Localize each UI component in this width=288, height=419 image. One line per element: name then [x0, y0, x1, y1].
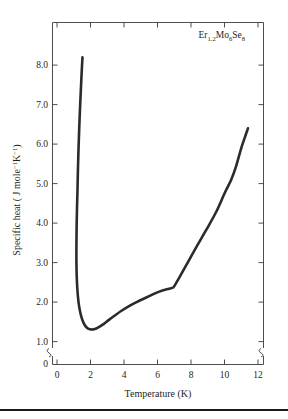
y-tick-label: 1.0: [36, 337, 48, 347]
compound-annotation: Er1.2Mo6Se8: [198, 30, 245, 42]
x-tick-label: 12: [253, 370, 263, 380]
svg-text:Specific heat ( J mole−1K−1): Specific heat ( J mole−1K−1): [11, 144, 23, 255]
y-axis-ticks: [53, 65, 58, 342]
y-tick-label: 4.0: [36, 218, 48, 228]
specific-heat-curve: [76, 57, 248, 329]
x-tick-label: 4: [122, 370, 127, 380]
y-axis-title-tail: ): [11, 144, 23, 147]
y-axis-title-lead: Specific heat ( J mole: [11, 168, 23, 255]
y-tick-labels: 1.0 2.0 3.0 4.0 5.0 6.0 7.0 8.0 0: [36, 60, 48, 368]
x-tick-label: 8: [189, 370, 194, 380]
x-tick-label: 6: [155, 370, 160, 380]
x-tick-label: 2: [88, 370, 93, 380]
y-tick-label: 2.0: [36, 297, 48, 307]
specific-heat-figure: 1.0 2.0 3.0 4.0 5.0 6.0 7.0 8.0 0 0 2 4 …: [0, 0, 288, 419]
footer-divider: [0, 409, 288, 411]
y-tick-label: 8.0: [36, 60, 48, 70]
x-axis-ticks-top: [57, 23, 258, 28]
y-tick-label: 5.0: [36, 179, 48, 189]
y-origin-label: 0: [43, 359, 48, 369]
plot-frame: [53, 23, 264, 365]
y-axis-title-sup2: −1: [11, 148, 18, 155]
y-tick-label: 7.0: [36, 100, 48, 110]
x-axis-ticks: [57, 360, 258, 365]
annotation-compound1: Mo: [216, 30, 229, 40]
annotation-compound2: Se: [232, 30, 242, 40]
x-tick-labels: 0 2 4 6 8 10 12: [55, 370, 263, 380]
annotation-sub3: 8: [242, 35, 246, 42]
y-axis-title: Specific heat ( J mole−1K−1): [11, 144, 23, 255]
y-axis-title-sup1: −1: [11, 162, 18, 169]
axis-break-right: [259, 349, 263, 358]
y-tick-label: 6.0: [36, 139, 48, 149]
y-tick-label: 3.0: [36, 258, 48, 268]
chart-canvas: 1.0 2.0 3.0 4.0 5.0 6.0 7.0 8.0 0 0 2 4 …: [0, 0, 288, 419]
x-axis-title: Temperature (K): [125, 388, 192, 400]
x-tick-label: 0: [55, 370, 60, 380]
y-axis-ticks-right: [259, 65, 264, 342]
annotation-sub1: 1.2: [207, 35, 215, 42]
axis-break-left: [47, 349, 51, 358]
x-tick-label: 10: [220, 370, 230, 380]
